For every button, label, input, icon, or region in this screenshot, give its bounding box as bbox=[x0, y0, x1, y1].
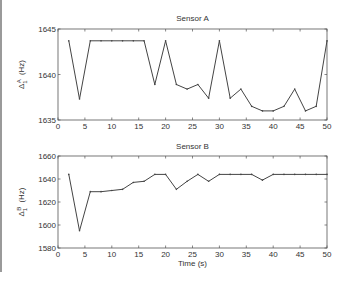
x-tick-label: 5 bbox=[83, 250, 88, 259]
data-point bbox=[89, 191, 91, 193]
x-tick-label: 0 bbox=[56, 250, 61, 259]
data-point bbox=[240, 88, 242, 90]
x-tick-label: 35 bbox=[242, 250, 251, 259]
data-point bbox=[154, 84, 156, 86]
x-tick-label: 30 bbox=[215, 250, 224, 259]
y-axis-label: Δ1A (Hz) bbox=[16, 60, 28, 89]
data-point bbox=[240, 174, 242, 176]
data-point bbox=[294, 174, 296, 176]
y-tick-label: 1645 bbox=[38, 25, 56, 34]
data-point bbox=[283, 174, 285, 176]
data-point bbox=[68, 40, 70, 42]
data-point bbox=[326, 40, 328, 42]
data-point bbox=[176, 189, 178, 191]
data-point bbox=[89, 40, 91, 42]
data-point bbox=[283, 106, 285, 108]
sensor-b-plot: Sensor B05101520253035404550158016001620… bbox=[16, 142, 332, 268]
data-point bbox=[251, 174, 253, 176]
data-point bbox=[219, 40, 221, 42]
x-tick-label: 25 bbox=[188, 250, 197, 259]
data-point bbox=[315, 106, 317, 108]
x-tick-label: 20 bbox=[161, 250, 170, 259]
y-tick-label: 1635 bbox=[38, 116, 56, 125]
data-point bbox=[100, 191, 102, 193]
data-point bbox=[208, 181, 210, 183]
x-tick-label: 45 bbox=[296, 122, 305, 131]
data-point bbox=[154, 174, 156, 176]
data-point bbox=[122, 189, 124, 191]
x-tick-label: 10 bbox=[107, 250, 116, 259]
data-point bbox=[326, 174, 328, 176]
y-tick-label: 1640 bbox=[38, 175, 56, 184]
data-point bbox=[143, 181, 145, 183]
data-point bbox=[186, 88, 188, 90]
data-point bbox=[272, 174, 274, 176]
data-point bbox=[197, 84, 199, 86]
data-point bbox=[315, 174, 317, 176]
data-point bbox=[251, 106, 253, 108]
x-tick-label: 20 bbox=[161, 122, 170, 131]
axes-box bbox=[58, 156, 327, 248]
x-axis-label: Time (s) bbox=[178, 259, 207, 268]
data-point bbox=[122, 40, 124, 42]
data-point bbox=[143, 40, 145, 42]
axes-box bbox=[58, 29, 327, 120]
y-tick-label: 1640 bbox=[38, 71, 56, 80]
data-point bbox=[165, 40, 167, 42]
x-tick-label: 15 bbox=[134, 250, 143, 259]
data-point bbox=[305, 174, 307, 176]
chart-title: Sensor B bbox=[176, 142, 209, 151]
data-point bbox=[176, 84, 178, 86]
data-point bbox=[111, 190, 113, 192]
y-tick-label: 1660 bbox=[38, 152, 56, 161]
x-tick-label: 50 bbox=[323, 122, 332, 131]
y-tick-label: 1580 bbox=[38, 244, 56, 253]
x-tick-label: 5 bbox=[83, 122, 88, 131]
x-tick-label: 35 bbox=[242, 122, 251, 131]
data-point bbox=[272, 110, 274, 112]
data-point bbox=[133, 40, 135, 42]
data-point bbox=[208, 97, 210, 99]
data-point bbox=[197, 174, 199, 176]
x-tick-label: 0 bbox=[56, 122, 61, 131]
sensor-a-plot: Sensor A05101520253035404550163516401645… bbox=[16, 14, 332, 131]
y-tick-label: 1600 bbox=[38, 221, 56, 230]
x-tick-label: 45 bbox=[296, 250, 305, 259]
data-point bbox=[100, 40, 102, 42]
data-point bbox=[294, 88, 296, 90]
x-tick-label: 15 bbox=[134, 122, 143, 131]
chart-title: Sensor A bbox=[176, 14, 209, 23]
x-tick-label: 25 bbox=[188, 122, 197, 131]
data-point bbox=[133, 182, 135, 184]
data-point bbox=[79, 230, 81, 232]
data-series-line bbox=[69, 41, 327, 111]
data-point bbox=[229, 97, 231, 99]
data-point bbox=[305, 110, 307, 112]
data-point bbox=[219, 174, 221, 176]
data-point bbox=[186, 181, 188, 183]
data-point bbox=[229, 174, 231, 176]
y-tick-label: 1620 bbox=[38, 198, 56, 207]
data-point bbox=[165, 174, 167, 176]
data-point bbox=[262, 179, 264, 181]
x-tick-label: 40 bbox=[269, 122, 278, 131]
data-point bbox=[68, 174, 70, 176]
data-point bbox=[262, 110, 264, 112]
data-series-line bbox=[69, 174, 327, 230]
data-point bbox=[111, 40, 113, 42]
x-tick-label: 50 bbox=[323, 250, 332, 259]
y-axis-label: Δ1B (Hz) bbox=[16, 187, 28, 216]
x-tick-label: 30 bbox=[215, 122, 224, 131]
data-point bbox=[79, 98, 81, 100]
x-tick-label: 40 bbox=[269, 250, 278, 259]
chart-figure: Sensor A05101520253035404550163516401645… bbox=[0, 0, 347, 282]
x-tick-label: 10 bbox=[107, 122, 116, 131]
